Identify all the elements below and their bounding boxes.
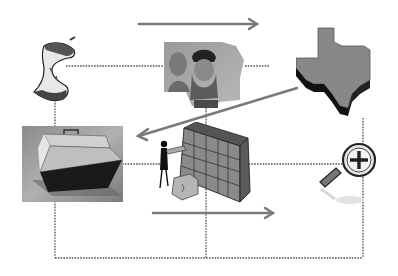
person-filing-cabinet-icon [156,122,252,208]
bottom-arrow [153,208,273,218]
texas-map-icon [296,26,376,118]
zoom-in-magnifier-icon [316,138,380,214]
apple-core-icon [30,36,86,104]
top-arrow [139,19,257,29]
leonardo-portrait-image [164,42,248,108]
briefcase-photo [22,126,123,202]
